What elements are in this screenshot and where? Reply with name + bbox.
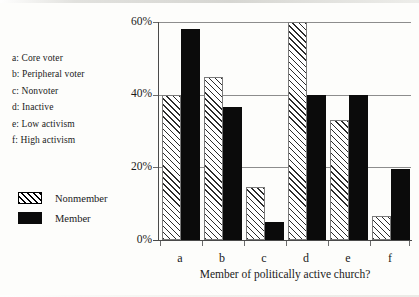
- x-tick-mark: [202, 241, 203, 246]
- y-tick-label: 0%: [106, 233, 152, 245]
- x-axis-line: [153, 240, 412, 241]
- plot-area: abcdef: [159, 22, 411, 240]
- x-tick-mark: [370, 241, 371, 246]
- bar-e-nonmember: [330, 120, 349, 240]
- bar-chart-figure: a: Core voter b: Peripheral voter c: Non…: [0, 0, 419, 297]
- bar-e-member: [349, 95, 368, 240]
- x-tick-label-d: d: [294, 251, 318, 266]
- x-tick-label-e: e: [336, 251, 360, 266]
- y-tick-label: 40%: [106, 87, 152, 99]
- bar-f-member: [391, 169, 410, 240]
- gridline-60: [159, 22, 411, 23]
- x-tick-label-f: f: [378, 251, 402, 266]
- x-tick-mark: [160, 241, 161, 246]
- bar-c-nonmember: [246, 187, 265, 240]
- bar-f-nonmember: [372, 216, 391, 240]
- y-tick-label: 20%: [106, 160, 152, 172]
- x-tick-mark: [409, 241, 410, 246]
- x-tick-mark: [244, 241, 245, 246]
- x-tick-mark: [286, 241, 287, 246]
- bar-d-member: [307, 95, 326, 240]
- bar-b-nonmember: [204, 77, 223, 241]
- bar-a-nonmember: [162, 95, 181, 240]
- y-tick-label: 60%: [106, 15, 152, 27]
- bar-d-nonmember: [288, 22, 307, 240]
- x-tick-label-a: a: [168, 251, 192, 266]
- bar-b-member: [223, 107, 242, 240]
- x-axis-title: Member of politically active church?: [159, 268, 411, 280]
- x-tick-label-c: c: [252, 251, 276, 266]
- x-tick-label-b: b: [210, 251, 234, 266]
- x-tick-mark: [328, 241, 329, 246]
- bar-c-member: [265, 222, 284, 240]
- bar-a-member: [181, 29, 200, 240]
- y-axis-line: [158, 22, 159, 241]
